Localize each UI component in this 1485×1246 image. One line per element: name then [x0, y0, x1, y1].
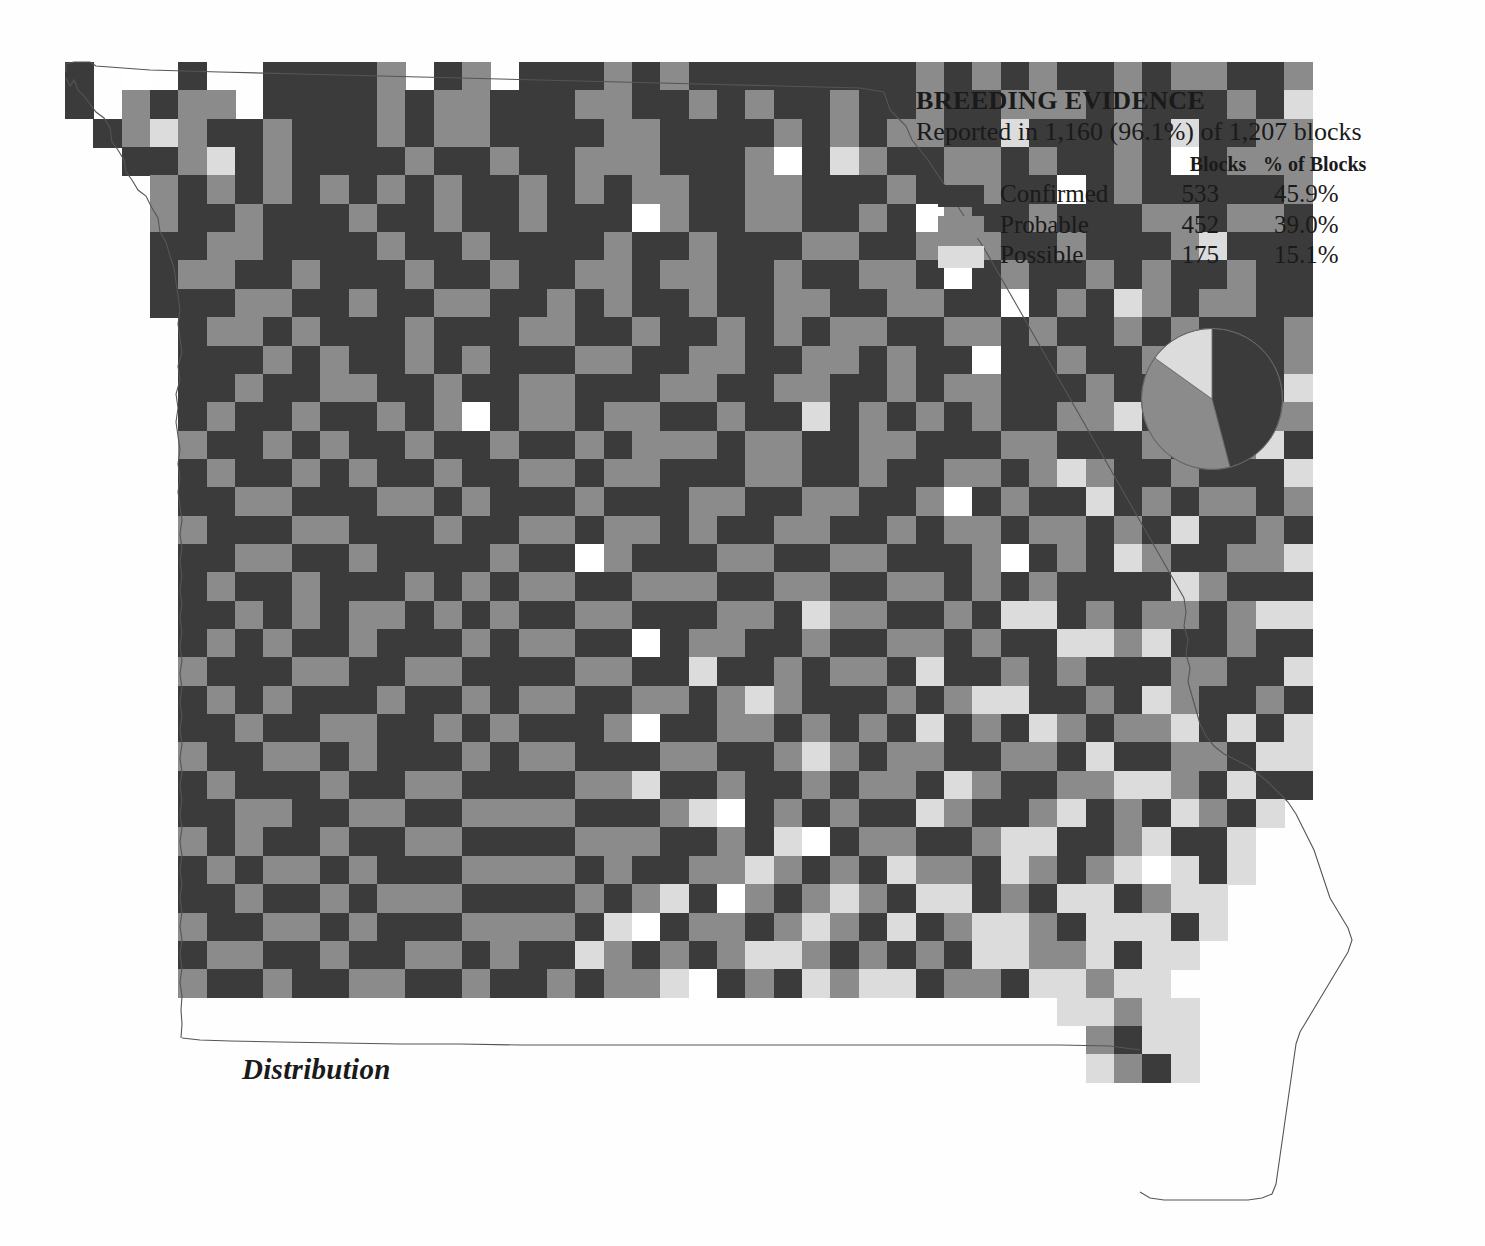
map-block — [972, 799, 1001, 828]
map-block — [1086, 601, 1115, 630]
map-block — [745, 629, 774, 658]
map-block — [1284, 544, 1313, 573]
map-block — [1256, 742, 1285, 771]
map-block — [774, 714, 803, 743]
map-block — [1171, 289, 1200, 318]
map-block — [632, 742, 661, 771]
map-block — [1171, 771, 1200, 800]
legend-panel: BREEDING EVIDENCE Reported in 1,160 (96.… — [916, 86, 1456, 271]
map-block — [916, 884, 945, 913]
map-block — [519, 913, 548, 942]
map-block — [405, 686, 434, 715]
map-block — [575, 147, 604, 176]
map-block — [802, 771, 831, 800]
map-block — [235, 799, 264, 828]
map-block — [859, 487, 888, 516]
map-block — [802, 572, 831, 601]
map-block — [490, 402, 519, 431]
map-block — [774, 742, 803, 771]
map-block — [377, 175, 406, 204]
map-block — [1029, 827, 1058, 856]
map-block — [632, 771, 661, 800]
map-block — [1171, 601, 1200, 630]
map-block — [178, 175, 207, 204]
map-block — [802, 119, 831, 148]
map-block — [434, 686, 463, 715]
map-block — [916, 969, 945, 998]
map-block — [1001, 431, 1030, 460]
map-block — [632, 601, 661, 630]
map-block — [717, 799, 746, 828]
map-block — [235, 516, 264, 545]
map-block — [547, 629, 576, 658]
map-block — [717, 232, 746, 261]
map-block — [887, 374, 916, 403]
map-block — [660, 289, 689, 318]
map-block — [632, 544, 661, 573]
map-block — [434, 771, 463, 800]
map-block — [1171, 856, 1200, 885]
map-block — [263, 969, 292, 998]
map-block — [150, 232, 179, 261]
map-block — [320, 260, 349, 289]
map-block — [1171, 516, 1200, 545]
map-block — [1142, 856, 1171, 885]
map-block — [1086, 544, 1115, 573]
map-block — [717, 572, 746, 601]
map-block — [1086, 374, 1115, 403]
map-block — [689, 119, 718, 148]
map-block — [263, 90, 292, 119]
map-block — [405, 402, 434, 431]
map-block — [349, 147, 378, 176]
map-block — [887, 714, 916, 743]
map-block — [235, 572, 264, 601]
map-block — [660, 487, 689, 516]
map-block — [632, 487, 661, 516]
map-block — [519, 431, 548, 460]
map-block — [632, 374, 661, 403]
map-block — [150, 175, 179, 204]
map-block — [263, 714, 292, 743]
map-block — [1142, 799, 1171, 828]
map-block — [916, 487, 945, 516]
map-block — [349, 232, 378, 261]
map-block — [1001, 317, 1030, 346]
map-block — [859, 346, 888, 375]
map-block — [519, 629, 548, 658]
map-block — [320, 431, 349, 460]
map-block — [547, 260, 576, 289]
map-block — [1086, 913, 1115, 942]
map-block — [717, 516, 746, 545]
map-block — [519, 260, 548, 289]
map-block — [632, 147, 661, 176]
map-block — [263, 175, 292, 204]
map-block — [944, 459, 973, 488]
map-block — [1114, 544, 1143, 573]
map-block — [604, 657, 633, 686]
map-block — [178, 516, 207, 545]
map-block — [1001, 346, 1030, 375]
map-block — [490, 601, 519, 630]
map-block — [320, 969, 349, 998]
map-block — [802, 90, 831, 119]
map-block — [547, 969, 576, 998]
map-block — [660, 686, 689, 715]
map-block — [292, 260, 321, 289]
map-block — [490, 941, 519, 970]
map-block — [1057, 317, 1086, 346]
map-block — [859, 402, 888, 431]
map-block — [292, 459, 321, 488]
map-block — [405, 232, 434, 261]
map-block — [1001, 771, 1030, 800]
map-block — [1199, 742, 1228, 771]
map-block — [1171, 629, 1200, 658]
map-block — [547, 544, 576, 573]
map-block — [859, 714, 888, 743]
map-block — [490, 147, 519, 176]
map-block — [434, 289, 463, 318]
map-block — [1142, 544, 1171, 573]
map-block — [462, 799, 491, 828]
map-block — [547, 204, 576, 233]
map-block — [434, 374, 463, 403]
map-block — [1284, 771, 1313, 800]
